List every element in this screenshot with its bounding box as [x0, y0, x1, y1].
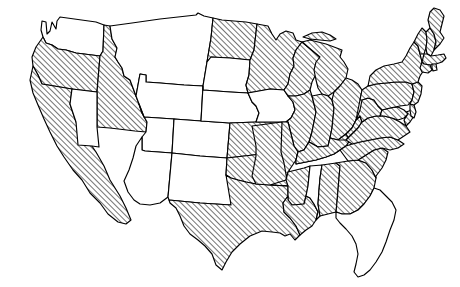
state-SD[interactable]: South Dakota — [203, 57, 250, 93]
state-ND[interactable]: North Dakota — [207, 18, 257, 62]
state-DE[interactable]: Delaware — [410, 104, 416, 118]
state-NM[interactable]: New Mexico — [168, 153, 232, 205]
state-MA[interactable]: Massachusetts — [422, 54, 446, 65]
state-NY[interactable]: New York — [368, 42, 424, 86]
state-CO[interactable]: Colorado — [172, 119, 230, 158]
map-figure: Washington Oregon California Idaho Nevad… — [0, 0, 460, 287]
united-states-map: Washington Oregon California Idaho Nevad… — [0, 0, 460, 287]
states-layer: Washington Oregon California Idaho Nevad… — [30, 8, 446, 277]
state-RI[interactable]: Rhode Island — [432, 64, 437, 71]
